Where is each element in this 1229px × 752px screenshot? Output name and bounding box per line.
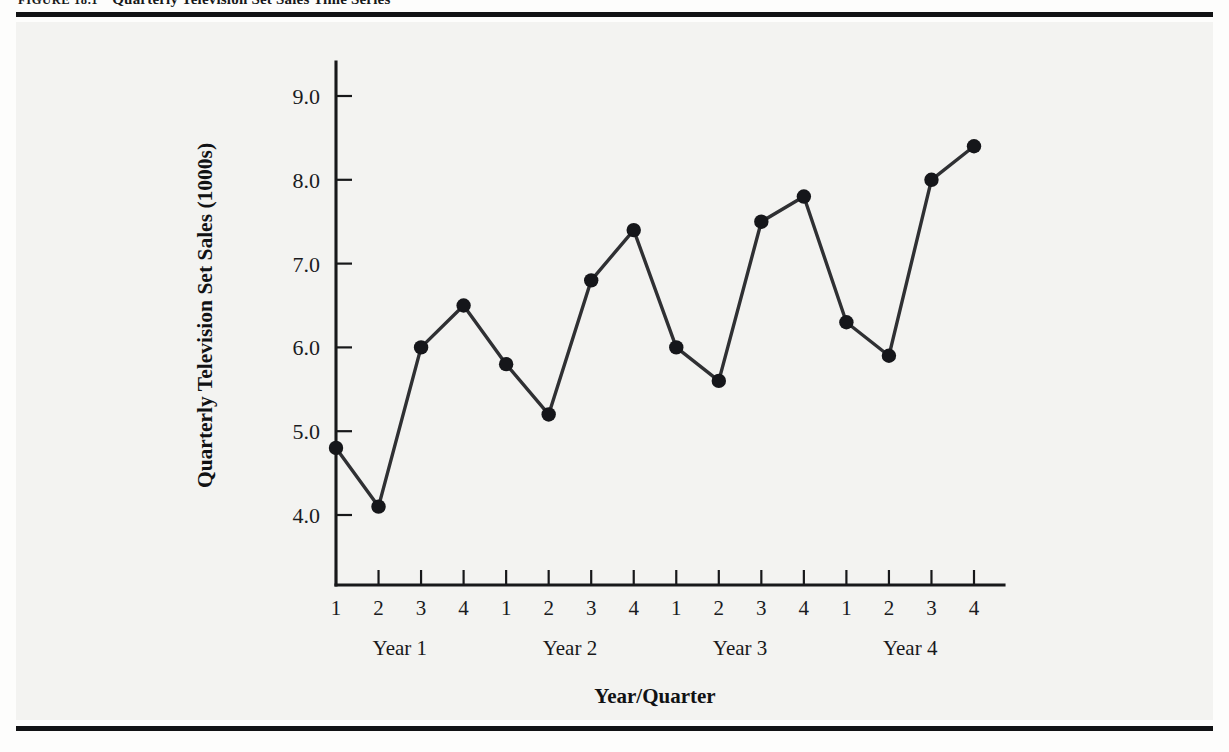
chart-panel: 4.05.06.07.08.09.01234123412341234Year 1…: [16, 22, 1213, 720]
x-axis-tick-label: 4: [799, 596, 810, 620]
data-point-marker: Year 3 Q3: 7.5: [754, 215, 768, 229]
figure-title: Quarterly Television Set Sales Time Seri…: [112, 0, 390, 7]
data-point-marker: Year 4 Q3: 8: [924, 173, 938, 187]
x-axis-group-label: Year 3: [713, 636, 767, 660]
y-axis-tick-label: 7.0: [293, 252, 321, 277]
y-axis-tick-label: 6.0: [293, 335, 321, 360]
data-point-marker: Year 1 Q2: 4.1: [371, 499, 385, 513]
y-axis-tick-label: 4.0: [293, 503, 321, 528]
data-point-marker: Year 3 Q4: 7.8: [797, 189, 811, 203]
x-axis-group-label: Year 4: [883, 636, 938, 660]
y-axis-tick-label: 9.0: [293, 84, 321, 109]
line-chart: 4.05.06.07.08.09.01234123412341234Year 1…: [16, 22, 1213, 720]
x-axis-tick-label: 3: [756, 596, 767, 620]
data-point-marker: Year 2 Q2: 5.2: [541, 407, 555, 421]
x-axis-tick-label: 1: [671, 596, 682, 620]
x-axis-group-label: Year 2: [543, 636, 597, 660]
data-point-marker: Year 1 Q3: 6: [414, 340, 428, 354]
data-point-marker: Year 1 Q1: 4.8: [329, 441, 343, 455]
y-axis-tick-label: 8.0: [293, 168, 321, 193]
data-point-marker: Year 4 Q4: 8.4: [967, 139, 981, 153]
x-axis-tick-label: 3: [586, 596, 597, 620]
x-axis-group-label: Year 1: [373, 636, 427, 660]
x-axis-tick-label: 2: [543, 596, 554, 620]
data-point-marker: Year 1 Q4: 6.5: [456, 298, 470, 312]
figure-page: FIGURE 18.1Quarterly Television Set Sale…: [0, 0, 1229, 752]
x-axis-tick-label: 1: [841, 596, 852, 620]
x-axis-tick-label: 2: [884, 596, 895, 620]
y-axis-title: Quarterly Television Set Sales (1000s): [193, 143, 217, 488]
caption-divider-top: [16, 12, 1213, 17]
data-series-line: [336, 146, 974, 506]
plot-area: 4.05.06.07.08.09.01234123412341234Year 1…: [16, 22, 1213, 720]
data-point-marker: Year 4 Q2: 5.9: [882, 349, 896, 363]
x-axis-tick-label: 2: [714, 596, 725, 620]
figure-caption: FIGURE 18.1Quarterly Television Set Sale…: [18, 0, 390, 8]
data-point-marker: Year 3 Q2: 5.6: [712, 374, 726, 388]
data-point-marker: Year 2 Q1: 5.8: [499, 357, 513, 371]
x-axis-tick-label: 3: [416, 596, 427, 620]
x-axis-tick-label: 4: [458, 596, 469, 620]
data-point-marker: Year 2 Q3: 6.8: [584, 273, 598, 287]
x-axis-title: Year/Quarter: [594, 684, 715, 708]
y-axis-tick-label: 5.0: [293, 419, 321, 444]
x-axis-tick-label: 3: [926, 596, 937, 620]
x-axis-tick-label: 4: [969, 596, 980, 620]
x-axis-tick-label: 1: [331, 596, 342, 620]
data-point-marker: Year 3 Q1: 6: [669, 340, 683, 354]
figure-number: FIGURE 18.1: [18, 0, 98, 7]
x-axis-tick-label: 2: [373, 596, 384, 620]
figure-divider-bottom: [16, 726, 1213, 731]
data-point-marker: Year 4 Q1: 6.3: [839, 315, 853, 329]
x-axis-tick-label: 1: [501, 596, 512, 620]
x-axis-tick-label: 4: [628, 596, 639, 620]
data-point-marker: Year 2 Q4: 7.4: [627, 223, 641, 237]
